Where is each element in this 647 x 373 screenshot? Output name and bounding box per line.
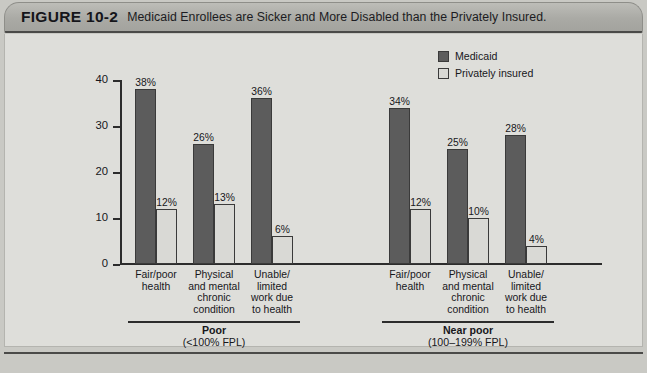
bar-slot: 34%: [389, 80, 410, 264]
bar-slot: 4%: [526, 80, 547, 264]
bar-medicaid: 38%: [135, 89, 156, 264]
category-label-line: to health: [242, 304, 302, 316]
group-name: Poor: [128, 324, 300, 336]
y-tick-label-0: 0: [102, 257, 108, 269]
bar-slot: 25%: [447, 80, 468, 264]
category-label-line: health: [126, 281, 186, 293]
bar-private: 12%: [410, 209, 431, 264]
bar-value-label: 25%: [447, 137, 468, 148]
bar-private: 4%: [526, 246, 547, 264]
bar-medicaid: 28%: [505, 135, 526, 264]
bar-slot: 12%: [410, 80, 431, 264]
category-label-line: Unable/: [496, 269, 556, 281]
bar-medicaid: 25%: [447, 149, 468, 264]
category-label-line: Fair/poor: [126, 269, 186, 281]
bar-private: 12%: [156, 209, 177, 264]
category-label-line: and mental: [438, 281, 498, 293]
y-tick-label-10: 10: [95, 211, 108, 223]
y-tick-label-30: 30: [95, 119, 108, 131]
category-label: Unable/limitedwork dueto health: [242, 269, 302, 315]
figure-number: FIGURE 10-2: [21, 8, 118, 26]
category-label-line: limited: [496, 281, 556, 293]
bar-slot: 26%: [193, 80, 214, 264]
bar-medicaid: 34%: [389, 108, 410, 264]
category-label-line: condition: [438, 304, 498, 316]
bar-slot: 28%: [505, 80, 526, 264]
y-tick-10: 10: [113, 218, 120, 220]
category-label-line: work due: [242, 292, 302, 304]
bar-medicaid: 26%: [193, 144, 214, 264]
group-subtitle: (<100% FPL): [128, 336, 300, 348]
category-label-line: to health: [496, 304, 556, 316]
bar-value-label: 13%: [214, 192, 235, 203]
bar-slot: 38%: [135, 80, 156, 264]
bar-slot: 36%: [251, 80, 272, 264]
figure-title: Medicaid Enrollees are Sicker and More D…: [127, 10, 546, 24]
bar-medicaid: 36%: [251, 98, 272, 264]
bar-value-label: 6%: [275, 224, 290, 235]
y-tick-20: 20: [113, 172, 120, 174]
bar-value-label: 38%: [135, 77, 156, 88]
group-rule: [128, 321, 300, 323]
group-label: Poor(<100% FPL): [128, 324, 300, 348]
bar-slot: 12%: [156, 80, 177, 264]
category-label-line: and mental: [184, 281, 244, 293]
bar-private: 6%: [272, 236, 293, 264]
category-label-line: work due: [496, 292, 556, 304]
category-label-line: limited: [242, 281, 302, 293]
group-name: Near poor: [382, 324, 554, 336]
y-tick-label-40: 40: [95, 73, 108, 85]
category-label-line: condition: [184, 304, 244, 316]
bar-value-label: 34%: [389, 96, 410, 107]
bar-value-label: 4%: [529, 234, 544, 245]
group-rule: [382, 321, 554, 323]
bar-value-label: 26%: [193, 132, 214, 143]
y-tick-label-20: 20: [95, 165, 108, 177]
category-label-line: Unable/: [242, 269, 302, 281]
category-label-line: health: [380, 281, 440, 293]
category-label-line: chronic: [438, 292, 498, 304]
group-subtitle: (100–199% FPL): [382, 336, 554, 348]
footer-divider: [4, 352, 643, 354]
bar-value-label: 12%: [156, 197, 177, 208]
y-tick-0: 0: [113, 264, 120, 266]
bars-layer: 38%12%26%13%36%6%34%12%25%10%28%4%: [121, 80, 602, 264]
figure-container: FIGURE 10-2 Medicaid Enrollees are Sicke…: [0, 0, 647, 373]
bar-slot: 10%: [468, 80, 489, 264]
chart-panel: Medicaid Privately insured 010203040 38%…: [4, 34, 643, 347]
bar-value-label: 10%: [468, 206, 489, 217]
bar-private: 13%: [214, 204, 235, 264]
figure-header-inner: FIGURE 10-2 Medicaid Enrollees are Sicke…: [21, 3, 634, 31]
category-label: Unable/limitedwork dueto health: [496, 269, 556, 315]
category-label-line: Physical: [438, 269, 498, 281]
category-label-line: Fair/poor: [380, 269, 440, 281]
bar-value-label: 12%: [410, 197, 431, 208]
y-tick-30: 30: [113, 126, 120, 128]
category-label: Physicaland mentalchroniccondition: [184, 269, 244, 315]
category-label-line: chronic: [184, 292, 244, 304]
y-tick-40: 40: [113, 80, 120, 82]
bar-slot: 6%: [272, 80, 293, 264]
figure-header: FIGURE 10-2 Medicaid Enrollees are Sicke…: [4, 2, 643, 33]
category-label: Physicaland mentalchroniccondition: [438, 269, 498, 315]
category-label: Fair/poorhealth: [126, 269, 186, 292]
category-label: Fair/poorhealth: [380, 269, 440, 292]
category-label-line: Physical: [184, 269, 244, 281]
plot-area: 010203040 38%12%26%13%36%6%34%12%25%10%2…: [5, 34, 644, 347]
bar-value-label: 28%: [505, 123, 526, 134]
group-label: Near poor(100–199% FPL): [382, 324, 554, 348]
bar-slot: 13%: [214, 80, 235, 264]
bar-private: 10%: [468, 218, 489, 264]
bar-value-label: 36%: [251, 86, 272, 97]
